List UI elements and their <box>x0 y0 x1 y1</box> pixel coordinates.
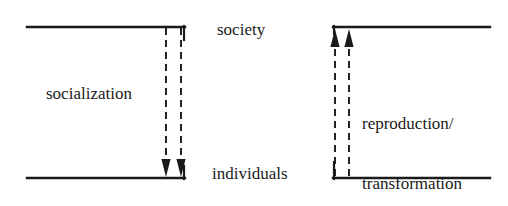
label-reproduction-transformation: reproduction/ transformation <box>362 74 462 206</box>
right-dashed-arrow-inner <box>344 29 353 176</box>
right-dashed-arrow-outer <box>330 29 339 176</box>
left-dashed-arrow-outer <box>176 28 185 177</box>
label-society: society <box>217 20 265 40</box>
left-dashed-arrow-inner <box>161 28 170 177</box>
diagram-figure: socialization society individuals reprod… <box>0 0 508 206</box>
label-socialization: socialization <box>46 84 132 104</box>
label-reproduction-line2: transformation <box>362 174 462 194</box>
label-individuals: individuals <box>212 164 288 184</box>
label-reproduction-line1: reproduction/ <box>362 114 462 134</box>
